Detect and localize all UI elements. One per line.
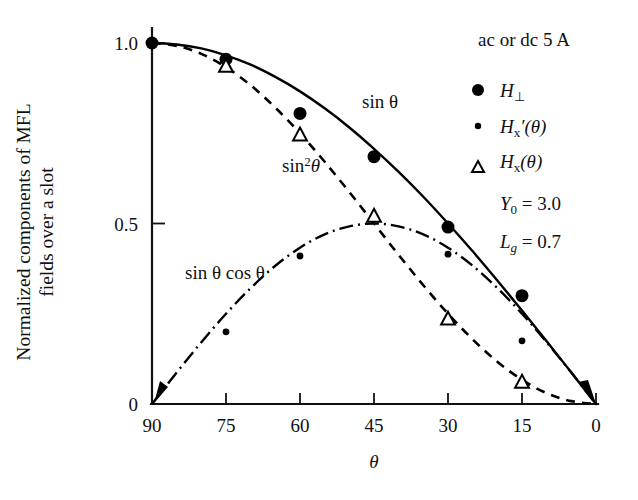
x-tick-label-0: 0 bbox=[591, 415, 601, 436]
y-axis-title-line1: Normalized components of MFL bbox=[13, 103, 34, 360]
data-point-H_perp-90 bbox=[146, 37, 159, 50]
sin-curve-arrowhead bbox=[578, 380, 596, 404]
sincos-curve-arrowhead bbox=[154, 381, 168, 403]
curve-label-sin: sin θ bbox=[362, 91, 398, 112]
y-axis-ticks bbox=[152, 43, 165, 224]
y-tick-label-0.5: 0.5 bbox=[114, 214, 138, 235]
y-tick-labels: 1.00.50 bbox=[114, 33, 138, 415]
x-tick-label-60: 60 bbox=[291, 415, 310, 436]
legend-marker-small-dot-icon bbox=[475, 123, 481, 129]
x-axis-title: θ bbox=[369, 451, 378, 472]
y-axis-title: Normalized components of MFL fields over… bbox=[13, 103, 57, 360]
curve-label-sin-cos: sin θ cos θ bbox=[185, 262, 265, 283]
x-tick-label-90: 90 bbox=[143, 415, 162, 436]
x-axis-ticks bbox=[152, 393, 596, 404]
x-tick-label-30: 30 bbox=[439, 415, 458, 436]
legend-marker-open-triangle-icon bbox=[472, 161, 484, 172]
data-point-Hx-45 bbox=[367, 209, 381, 222]
data-point-Hx-60 bbox=[293, 128, 307, 141]
x-tick-labels: 9075604530150 bbox=[143, 415, 601, 436]
y-tick-label-0: 0 bbox=[129, 394, 139, 415]
y-tick-label-1.0: 1.0 bbox=[114, 33, 138, 54]
curve-label-sin-squared: sin2θ bbox=[282, 154, 320, 176]
x-tick-label-75: 75 bbox=[217, 415, 236, 436]
legend-condition-text: ac or dc 5 A bbox=[478, 29, 570, 50]
data-point-H_perp-30 bbox=[442, 221, 455, 234]
data-point-H_perp-15 bbox=[516, 289, 529, 302]
data-point-H_perp-60 bbox=[294, 107, 307, 120]
x-tick-label-15: 15 bbox=[513, 415, 532, 436]
data-point-Hx_prime-30 bbox=[445, 251, 452, 258]
chart-figure: 9075604530150 1.00.50 sin θ sin2θ sin θ … bbox=[0, 0, 638, 500]
data-point-H_perp-45 bbox=[368, 150, 381, 163]
data-point-Hx_prime-75 bbox=[223, 328, 230, 335]
param-y0: Y0 = 3.0 bbox=[500, 193, 561, 217]
param-lg: Lg = 0.7 bbox=[499, 231, 561, 255]
chart-plot-area: 9075604530150 1.00.50 sin θ sin2θ sin θ … bbox=[0, 0, 638, 500]
legend-marker-filled-circle-icon bbox=[472, 84, 484, 96]
legend-label-h-perp: H⊥ bbox=[499, 80, 525, 104]
x-tick-label-45: 45 bbox=[365, 415, 384, 436]
legend-label-hx: Hx(θ) bbox=[499, 151, 542, 175]
data-point-Hx_prime-60 bbox=[297, 253, 304, 260]
chart-data-points bbox=[146, 37, 529, 388]
legend-label-hx-prime: Hx′(θ) bbox=[499, 116, 546, 140]
legend: ac or dc 5 A H⊥ Hx′(θ) Hx(θ) Y0 = 3.0 Lg… bbox=[472, 29, 570, 255]
data-point-Hx_prime-15 bbox=[519, 337, 526, 344]
y-axis-title-line2: fields over a slot bbox=[36, 167, 57, 297]
